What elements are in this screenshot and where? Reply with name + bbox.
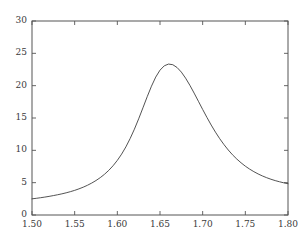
- line-chart: 051015202530 1.501.551.601.651.701.751.8…: [0, 0, 308, 244]
- data-series-line: [32, 64, 288, 199]
- y-tick-label: 0: [2, 210, 27, 219]
- plot-area: [0, 0, 308, 244]
- x-tick-label: 1.65: [140, 220, 180, 229]
- x-tick-label: 1.75: [225, 220, 265, 229]
- x-tick-label: 1.60: [97, 220, 137, 229]
- x-axis-ticks: [32, 21, 288, 215]
- y-tick-label: 20: [2, 81, 27, 90]
- y-tick-label: 5: [2, 178, 27, 187]
- y-axis-ticks: [32, 21, 288, 215]
- y-tick-label: 15: [2, 113, 27, 122]
- y-tick-label: 25: [2, 48, 27, 57]
- x-tick-label: 1.80: [268, 220, 308, 229]
- y-tick-label: 10: [2, 145, 27, 154]
- y-tick-label: 30: [2, 16, 27, 25]
- axes-frame: [32, 21, 288, 215]
- x-tick-label: 1.55: [55, 220, 95, 229]
- plot-frame: [32, 21, 288, 215]
- x-tick-label: 1.50: [12, 220, 52, 229]
- x-tick-label: 1.70: [183, 220, 223, 229]
